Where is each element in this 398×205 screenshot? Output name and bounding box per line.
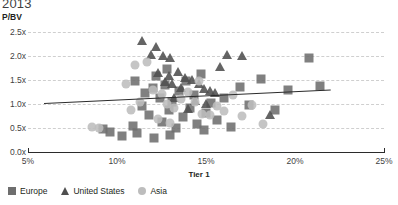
data-point-circle <box>169 103 178 112</box>
legend-label: Asia <box>150 186 167 196</box>
data-point-triangle <box>265 110 275 119</box>
legend-label: Europe <box>20 186 47 196</box>
data-point-square <box>226 123 235 132</box>
y-axis-tick: 2.0x <box>0 51 26 61</box>
gridline <box>28 32 384 33</box>
data-point-square <box>305 54 314 63</box>
legend-label: United States <box>73 186 124 196</box>
data-point-square <box>178 113 187 122</box>
data-point-circle <box>237 112 246 121</box>
data-point-circle <box>153 115 162 124</box>
scatter-chart: 2013 P/BV 0.0x0.5x1.0x1.5x2.0x2.5x5%10%1… <box>0 0 398 205</box>
data-point-square <box>150 133 159 142</box>
gridline <box>28 80 384 81</box>
legend-item-united-states[interactable]: United States <box>61 186 124 196</box>
gridline <box>28 56 384 57</box>
data-point-square <box>235 83 244 92</box>
data-point-circle <box>143 57 152 66</box>
data-point-triangle <box>201 99 211 108</box>
data-point-triangle <box>237 51 247 60</box>
data-point-circle <box>258 120 267 129</box>
data-point-square <box>283 85 292 94</box>
x-axis-tick: 15% <box>197 156 214 166</box>
data-point-square <box>105 127 114 136</box>
data-point-triangle <box>215 62 225 71</box>
data-point-triangle <box>160 77 170 86</box>
x-axis-label: Tier 1 <box>0 170 398 179</box>
data-point-circle <box>194 76 203 85</box>
data-point-triangle <box>137 36 147 45</box>
x-axis-line <box>28 152 384 153</box>
data-point-circle <box>148 85 157 94</box>
data-point-triangle <box>153 68 163 77</box>
legend-item-europe[interactable]: Europe <box>8 186 47 196</box>
data-point-square <box>130 76 139 85</box>
y-axis-tick: 0.5x <box>0 123 26 133</box>
data-point-circle <box>205 110 214 119</box>
legend-circle-icon <box>138 187 146 195</box>
data-point-circle <box>166 119 175 128</box>
y-axis-tick: 2.5x <box>0 27 26 37</box>
data-point-square <box>166 131 175 140</box>
axis-end-cap <box>28 148 29 153</box>
data-point-circle <box>248 100 257 109</box>
x-axis-tick: 5% <box>22 156 34 166</box>
chart-legend: EuropeUnited StatesAsia <box>8 186 167 196</box>
data-point-square <box>132 128 141 137</box>
data-point-circle <box>191 97 200 106</box>
data-point-square <box>257 75 266 84</box>
data-point-triangle <box>183 104 193 113</box>
y-axis-tick: 1.5x <box>0 75 26 85</box>
data-point-square <box>200 126 209 135</box>
data-point-circle <box>95 124 104 133</box>
data-point-square <box>212 116 221 125</box>
data-point-triangle <box>165 53 175 62</box>
data-point-triangle <box>222 50 232 59</box>
legend-triangle-icon <box>61 187 69 195</box>
data-point-square <box>145 110 154 119</box>
y-axis-tick: 1.0x <box>0 99 26 109</box>
data-point-circle <box>228 91 237 100</box>
legend-item-asia[interactable]: Asia <box>138 186 167 196</box>
x-axis-tick: 20% <box>286 156 303 166</box>
x-axis-tick: 25% <box>375 156 392 166</box>
legend-square-icon <box>8 187 16 195</box>
data-point-circle <box>127 105 136 114</box>
data-point-circle <box>130 60 139 69</box>
axis-end-cap <box>384 148 385 153</box>
x-axis-tick: 10% <box>108 156 125 166</box>
data-point-circle <box>121 79 130 88</box>
data-point-circle <box>219 107 228 116</box>
data-point-square <box>118 132 127 141</box>
